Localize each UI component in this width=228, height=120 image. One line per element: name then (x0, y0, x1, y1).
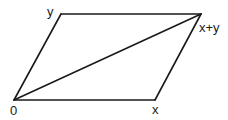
label-y: y (47, 5, 54, 18)
label-x: x (152, 103, 159, 116)
edge-x-to-sum (155, 14, 201, 100)
edge-origin-to-y (14, 14, 61, 100)
label-origin: 0 (10, 104, 17, 117)
parallelogram-diagram (0, 0, 228, 120)
diagonal-origin-to-sum (14, 14, 201, 100)
label-sum: x+y (199, 21, 220, 34)
